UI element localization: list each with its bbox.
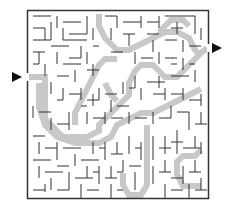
entry-arrow-icon — [12, 72, 22, 82]
exit-arrow-icon — [212, 43, 222, 53]
maze-puzzle — [0, 0, 226, 211]
solution-path — [27, 14, 207, 195]
